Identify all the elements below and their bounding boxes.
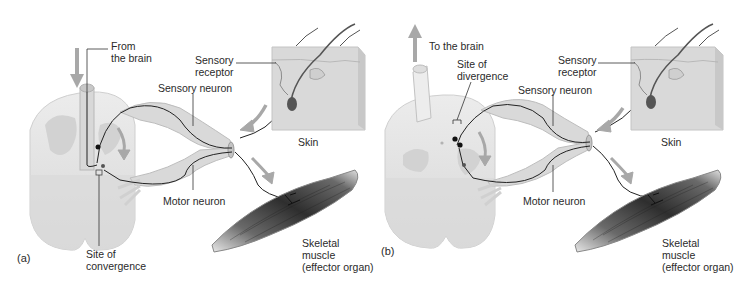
skin-block [631, 24, 723, 130]
skin-block [272, 24, 365, 130]
label-skeletal-muscle: Skeletal muscle (effector organ) [302, 237, 374, 273]
spinal-cord [385, 95, 495, 248]
synapse-dot [96, 145, 101, 150]
label-site-of-divergence: Site of divergence [457, 58, 508, 82]
label-to-the-brain: To the brain [429, 40, 484, 52]
label-sensory-neuron: Sensory neuron [518, 84, 592, 96]
arrow-down-icon [70, 48, 84, 88]
arrow-up-icon [408, 24, 422, 62]
label-motor-neuron: Motor neuron [523, 195, 585, 207]
panel-divergence: To the brain Site of divergence Sensory … [373, 0, 746, 284]
label-sensory-receptor: Sensory receptor [558, 54, 597, 78]
label-skin: Skin [661, 136, 681, 148]
panel-convergence: From the brain Sensory receptor Sensory … [0, 0, 373, 284]
synapse-dot [457, 142, 462, 147]
synapse-dot [452, 136, 457, 141]
label-site-of-convergence: Site of convergence [86, 248, 146, 272]
label-sensory-receptor: Sensory receptor [195, 54, 234, 78]
synapse-dot [462, 163, 466, 167]
label-skeletal-muscle: Skeletal muscle (effector organ) [662, 237, 734, 273]
panel-label-a: (a) [17, 252, 30, 264]
synapse-dot [101, 164, 105, 168]
label-sensory-neuron: Sensory neuron [158, 82, 232, 94]
label-motor-neuron: Motor neuron [163, 195, 225, 207]
panel-label-b: (b) [381, 245, 394, 257]
label-skin: Skin [298, 136, 318, 148]
label-from-the-brain: From the brain [111, 40, 152, 64]
